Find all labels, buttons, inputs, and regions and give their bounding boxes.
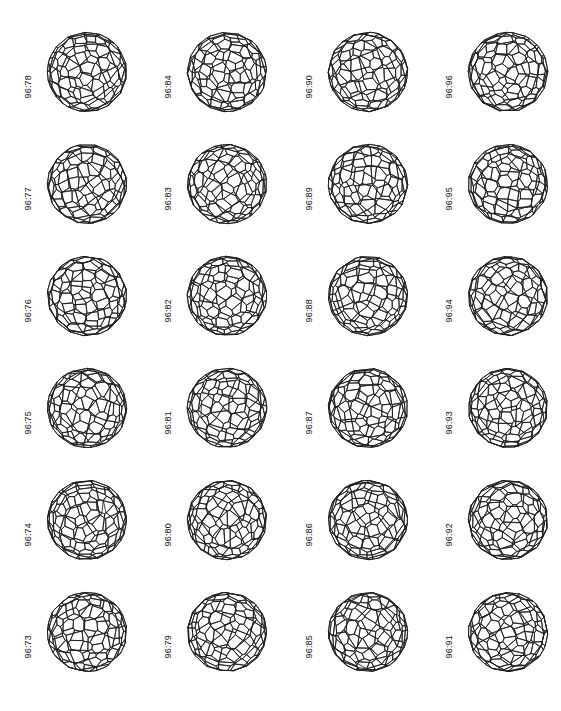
cage-face xyxy=(502,528,516,544)
cage-face xyxy=(358,72,381,95)
cage-face xyxy=(354,648,376,663)
cage-face xyxy=(73,616,85,632)
cage-face xyxy=(362,283,375,296)
cage-face xyxy=(108,486,121,500)
cage-face xyxy=(216,598,237,618)
cage-face xyxy=(384,538,397,553)
cage-face xyxy=(221,169,244,195)
cage-face xyxy=(514,533,532,550)
cage-face xyxy=(385,277,402,297)
cage-face xyxy=(473,58,484,74)
cage-face xyxy=(382,57,394,69)
cage-face xyxy=(107,151,119,162)
cage-face xyxy=(230,525,244,548)
cage-face xyxy=(487,649,501,659)
cage-face xyxy=(528,314,543,329)
cage-face xyxy=(202,298,214,310)
cage-face xyxy=(244,630,256,647)
cage-face xyxy=(82,429,94,441)
cage-face xyxy=(110,70,121,87)
cage-face xyxy=(491,318,507,329)
cage-face xyxy=(367,295,382,311)
cage-face xyxy=(531,423,541,437)
isomer-cell: 96:76 xyxy=(0,240,140,352)
cage-face xyxy=(55,377,67,389)
fullerene-cage xyxy=(175,20,279,124)
cage-face xyxy=(261,56,266,73)
isomer-cell: 96:89 xyxy=(281,128,421,240)
cage-face xyxy=(507,199,518,211)
fullerene-cage xyxy=(316,20,420,124)
isomer-label: 96:81 xyxy=(164,411,173,435)
cage-face xyxy=(485,147,501,154)
cage-face xyxy=(225,427,245,443)
cage-face xyxy=(214,272,228,283)
cage-face xyxy=(481,527,493,541)
cage-face xyxy=(512,271,525,283)
cage-face xyxy=(258,525,265,544)
cage-face xyxy=(48,410,54,428)
cage-face xyxy=(483,544,502,556)
cage-face xyxy=(384,637,397,652)
isomer-cell: 96:83 xyxy=(140,128,280,240)
cage-face xyxy=(470,496,479,516)
cage-face xyxy=(519,173,531,187)
fullerene-cage xyxy=(316,580,420,684)
cage-face xyxy=(198,260,211,270)
fullerene-cage xyxy=(175,132,279,236)
isomer-cell: 96:74 xyxy=(0,464,140,576)
cage-face xyxy=(193,293,204,307)
cage-face xyxy=(68,640,83,651)
isomer-cell: 96:80 xyxy=(140,464,280,576)
cage-face xyxy=(469,65,478,86)
cage-face xyxy=(399,638,406,654)
fullerene-cage xyxy=(456,132,560,236)
cage-face xyxy=(213,623,233,648)
fullerene-cage xyxy=(316,132,420,236)
cage-face xyxy=(362,78,378,90)
cage-face xyxy=(359,293,372,306)
fullerene-isomer-plate: 96:7896:8496:9096:9696:7796:8396:8996:95… xyxy=(0,0,561,711)
cage-face xyxy=(329,193,340,209)
isomer-cell: 96:93 xyxy=(421,352,561,464)
cage-face xyxy=(490,507,504,519)
cage-face xyxy=(481,512,495,527)
cage-face xyxy=(350,400,364,414)
isomer-cell: 96:79 xyxy=(140,576,280,688)
cage-face xyxy=(519,76,536,97)
cage-face xyxy=(399,385,406,403)
cage-face xyxy=(355,300,380,318)
fullerene-cage xyxy=(175,244,279,348)
cage-face xyxy=(357,272,373,283)
isomer-label: 96:92 xyxy=(445,523,454,547)
cage-face xyxy=(503,275,516,289)
isomer-label: 96:93 xyxy=(445,411,454,435)
isomer-cell: 96:73 xyxy=(0,576,140,688)
cage-face xyxy=(222,183,234,199)
cage-face xyxy=(498,267,513,280)
fullerene-cage xyxy=(175,468,279,572)
fullerene-cage xyxy=(175,356,279,460)
isomer-cell: 96:77 xyxy=(0,128,140,240)
cage-face xyxy=(330,421,341,438)
cage-face xyxy=(233,389,246,405)
isomer-label: 96:87 xyxy=(305,411,314,435)
cage-face xyxy=(505,492,521,505)
cage-face xyxy=(195,63,211,79)
cage-face xyxy=(253,610,264,629)
cage-face xyxy=(360,196,376,210)
fullerene-cage xyxy=(35,468,139,572)
fullerene-cage xyxy=(456,356,560,460)
isomer-label: 96:94 xyxy=(445,299,454,323)
isomer-label: 96:75 xyxy=(24,411,33,435)
cage-face xyxy=(244,170,260,192)
cage-face xyxy=(487,409,499,424)
isomer-grid: 96:7896:8496:9096:9696:7796:8396:8996:95… xyxy=(0,0,561,711)
cage-face xyxy=(110,169,121,185)
isomer-label: 96:76 xyxy=(24,299,33,323)
isomer-cell: 96:86 xyxy=(281,464,421,576)
isomer-cell: 96:94 xyxy=(421,240,561,352)
cage-face xyxy=(228,83,253,98)
cage-face xyxy=(204,50,224,67)
cage-face xyxy=(362,405,387,425)
